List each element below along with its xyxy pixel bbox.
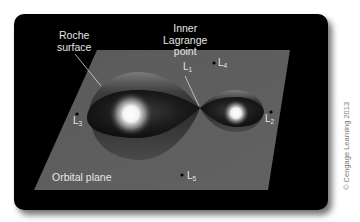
primary-star (109, 92, 153, 136)
l5-label: L5 (187, 171, 196, 184)
inner-lagrange-label-line3: point (163, 46, 207, 58)
inner-lagrange-point-label: Inner Lagrange point (163, 23, 207, 58)
l3-label: L3 (73, 116, 82, 129)
l2-label: L2 (265, 114, 274, 127)
roche-surface-label-line2: surface (57, 42, 91, 54)
roche-surface-label-line1: Roche (57, 30, 91, 42)
l5-dot (180, 173, 183, 176)
secondary-star (223, 100, 249, 126)
l4-dot (212, 61, 215, 64)
orbital-plane-label: Orbital plane (52, 172, 112, 184)
roche-surface-label: Roche surface (57, 30, 91, 53)
l4-label: L4 (218, 58, 227, 71)
l1-label: L1 (183, 62, 192, 75)
inner-lagrange-label-line1: Inner (163, 23, 207, 35)
copyright-notice: © Cengage Learning 2013 (342, 102, 351, 190)
